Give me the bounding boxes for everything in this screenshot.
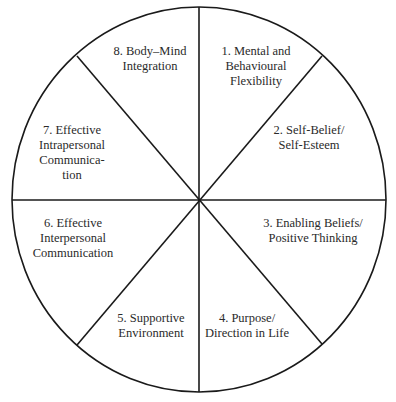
segment-4-line-2: Direction in Life xyxy=(205,326,289,340)
segment-3-line-2: Positive Thinking xyxy=(268,231,358,245)
segment-7-line-1: 7. Effective xyxy=(43,123,102,137)
segment-3-label: 3. Enabling Beliefs/ Positive Thinking xyxy=(263,216,363,245)
segment-7-line-2: Intrapersonal xyxy=(39,138,105,152)
segment-1-line-3: Flexibility xyxy=(230,74,283,88)
segment-3-line-1: 3. Enabling Beliefs/ xyxy=(263,216,363,230)
segment-1-line-2: Behavioural xyxy=(225,59,287,73)
segment-8-line-2: Integration xyxy=(123,59,179,73)
segment-8-label: 8. Body–Mind Integration xyxy=(114,44,188,73)
segment-7-line-3: Communica- xyxy=(39,153,104,167)
segment-6-line-1: 6. Effective xyxy=(44,216,103,230)
segment-8-line-1: 8. Body–Mind xyxy=(114,44,188,58)
segment-1-line-1: 1. Mental and xyxy=(221,44,291,58)
segment-7-line-4: tion xyxy=(62,168,82,182)
segment-1-label: 1. Mental and Behavioural Flexibility xyxy=(221,44,291,88)
segment-2-line-2: Self-Esteem xyxy=(278,138,339,152)
segment-2-line-1: 2. Self-Belief/ xyxy=(274,123,345,137)
segment-6-line-2: Interpersonal xyxy=(40,231,106,245)
segment-2-label: 2. Self-Belief/ Self-Esteem xyxy=(274,123,345,152)
segment-5-line-2: Environment xyxy=(118,326,184,340)
segment-4-line-1: 4. Purpose/ xyxy=(219,311,276,325)
segment-5-line-1: 5. Supportive xyxy=(117,311,185,325)
segment-5-label: 5. Supportive Environment xyxy=(117,311,185,340)
segment-6-line-3: Communication xyxy=(33,246,114,260)
segment-6-label: 6. Effective Interpersonal Communication xyxy=(33,216,114,260)
wheel-diagram: 1. Mental and Behavioural Flexibility 2.… xyxy=(0,0,396,402)
